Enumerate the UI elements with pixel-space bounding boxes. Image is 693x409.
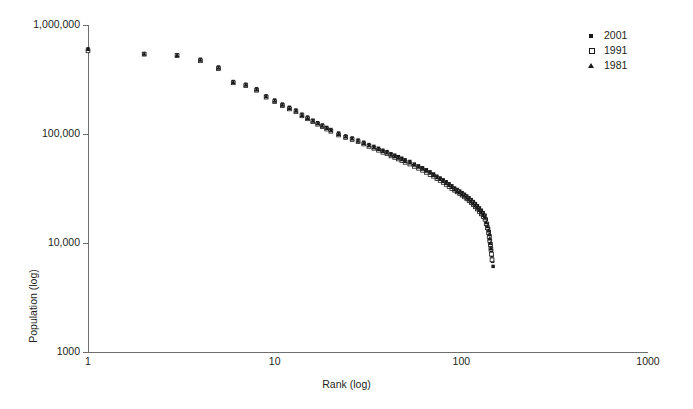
y-tick-mark xyxy=(83,352,88,353)
data-point xyxy=(484,222,488,226)
data-point xyxy=(413,162,416,165)
y-tick-label: 1,000,000 xyxy=(33,19,80,30)
data-point xyxy=(325,127,329,131)
data-point xyxy=(403,160,407,164)
data-point xyxy=(217,65,220,68)
data-point xyxy=(216,65,221,69)
data-point xyxy=(441,180,445,184)
data-point xyxy=(372,146,376,150)
data-point xyxy=(344,134,347,137)
data-point xyxy=(400,156,403,159)
data-point xyxy=(435,177,439,181)
x-tick-label: 1 xyxy=(58,356,118,367)
data-point xyxy=(428,170,431,173)
data-point xyxy=(428,171,433,175)
data-point xyxy=(280,103,285,107)
data-point xyxy=(421,168,425,172)
data-point xyxy=(316,122,320,126)
data-point xyxy=(457,190,462,194)
data-point xyxy=(481,213,486,217)
data-point xyxy=(403,158,406,161)
data-point xyxy=(231,81,235,85)
data-point xyxy=(367,144,371,148)
data-point xyxy=(488,239,492,243)
data-point xyxy=(385,150,390,154)
data-point xyxy=(478,209,482,213)
data-point xyxy=(175,54,179,58)
data-point xyxy=(175,53,180,57)
data-point xyxy=(385,150,388,153)
data-point xyxy=(490,258,494,262)
data-point xyxy=(396,155,401,159)
data-point xyxy=(244,83,247,86)
data-point xyxy=(489,246,494,250)
data-point xyxy=(329,128,332,131)
data-point xyxy=(488,243,492,247)
legend-item-1981[interactable]: 1981 xyxy=(586,58,656,73)
data-point xyxy=(445,180,448,183)
data-point xyxy=(417,166,421,170)
data-point xyxy=(362,142,366,146)
data-point xyxy=(280,104,284,108)
y-tick-mark xyxy=(83,134,88,135)
data-point xyxy=(487,231,490,234)
data-point xyxy=(486,228,491,232)
data-point xyxy=(438,179,442,183)
data-point xyxy=(455,188,458,191)
data-point xyxy=(450,185,455,189)
data-point xyxy=(377,147,380,150)
data-point xyxy=(432,174,436,178)
data-point xyxy=(324,126,329,130)
data-point xyxy=(489,244,492,247)
data-point xyxy=(389,152,394,156)
data-point xyxy=(400,159,404,163)
x-tick-label: 1000 xyxy=(618,356,678,367)
data-point xyxy=(458,192,462,196)
data-point xyxy=(488,235,491,238)
data-point xyxy=(428,173,432,177)
series-1991 xyxy=(86,49,494,262)
data-point xyxy=(321,123,324,126)
data-point xyxy=(329,128,334,132)
data-point xyxy=(264,95,268,99)
data-point xyxy=(489,239,492,242)
data-point xyxy=(416,165,421,169)
data-point xyxy=(467,196,470,199)
data-point xyxy=(264,94,269,98)
data-point xyxy=(447,182,450,185)
data-point xyxy=(453,186,456,189)
data-point xyxy=(486,222,489,225)
data-point xyxy=(435,175,440,179)
data-point xyxy=(476,207,480,211)
x-axis-line xyxy=(88,352,648,353)
data-point xyxy=(300,113,305,117)
data-point xyxy=(244,84,248,88)
data-point xyxy=(372,145,377,149)
y-axis-line xyxy=(88,25,89,352)
data-point xyxy=(377,148,381,152)
data-point xyxy=(232,80,235,83)
data-point xyxy=(175,53,178,56)
data-point xyxy=(310,119,315,123)
data-point xyxy=(455,190,459,194)
data-point xyxy=(389,154,393,158)
data-point xyxy=(479,210,484,214)
data-point xyxy=(350,136,355,140)
data-point xyxy=(408,160,411,163)
legend-item-1991[interactable]: 1991 xyxy=(586,43,656,58)
data-point xyxy=(438,177,443,181)
y-tick-label: 10,000 xyxy=(48,237,80,248)
data-point xyxy=(305,116,310,120)
data-point xyxy=(471,201,476,205)
data-point xyxy=(491,260,494,263)
legend-item-2001[interactable]: 2001 xyxy=(586,28,656,43)
data-point xyxy=(389,152,392,155)
data-point xyxy=(294,110,298,114)
x-tick-label: 100 xyxy=(431,356,491,367)
data-point xyxy=(381,149,384,152)
data-point xyxy=(444,182,448,186)
data-point xyxy=(142,52,147,56)
data-point xyxy=(490,249,493,252)
data-point xyxy=(467,197,472,201)
data-point xyxy=(300,114,304,118)
